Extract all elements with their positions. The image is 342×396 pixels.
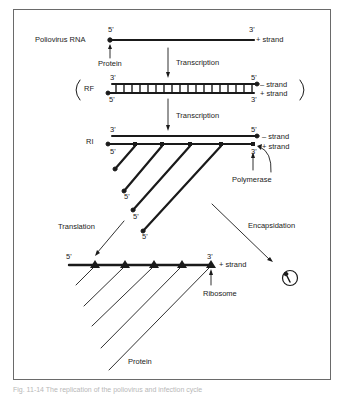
ri-bottom-left: 5' [110, 148, 116, 156]
ri-top-right: 5' [251, 126, 257, 134]
ri-minus-strand: – strand [262, 133, 289, 141]
polysome-three-prime: 3' [207, 253, 213, 261]
rf-bottom-left: 5' [109, 96, 115, 104]
transcription-label-2: Transcription [176, 112, 219, 120]
ri-plus-strand: + strand [262, 143, 289, 151]
ri-top-left: 3' [110, 126, 116, 134]
vpg-protein-dot [108, 38, 112, 42]
rf-plus-strand: + strand [260, 90, 287, 98]
ri-branch-end-2: 5' [133, 213, 139, 221]
five-prime-label: 5' [108, 26, 114, 34]
rf-label: RF [84, 85, 94, 93]
ri-branch-end-3: 5' [142, 233, 148, 241]
rf-minus-strand: – strand [260, 81, 287, 89]
rf-top-left: 3' [110, 74, 116, 82]
figure-caption: Fig. 11-14 The replication of the poliov… [13, 386, 202, 393]
rf-bottom-right: 3' [251, 96, 257, 104]
encapsidation-label: Encapsidation [248, 222, 295, 230]
ribosome-label: Ribosome [203, 290, 237, 298]
transcription-label-1: Transcription [176, 59, 219, 67]
protein-label: Protein [98, 60, 122, 68]
poliovirus-rna-label: Poliovirus RNA [35, 36, 85, 44]
ri-bottom-right: 3' [251, 148, 257, 156]
ri-branch-end-1: 5' [124, 193, 130, 201]
protein-chain-label: Protein [128, 358, 152, 366]
three-prime-label: 3' [249, 26, 255, 34]
rf-top-right: 5' [251, 74, 257, 82]
polysome-five-prime: 5' [66, 253, 72, 261]
plus-strand-label: + strand [256, 36, 283, 44]
ri-label: RI [86, 138, 94, 146]
polymerase-label: Polymerase [232, 176, 272, 184]
replication-diagram [0, 0, 342, 396]
translation-label: Translation [58, 223, 95, 231]
polysome-plus-strand: + strand [219, 261, 246, 269]
